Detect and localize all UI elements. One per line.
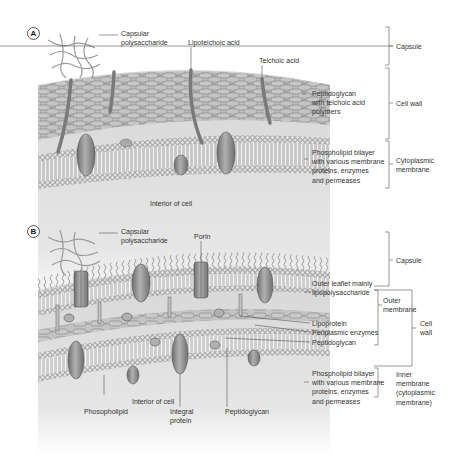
bracket-capsule-b: Capsule — [396, 256, 422, 265]
bracket-capsule-a: Capsule — [396, 42, 422, 51]
label-peptidoglycan-a: Peptidoglycan with teichoic acid polymer… — [312, 89, 365, 117]
bracket-cell-wall-b: Cell wall — [420, 319, 432, 337]
label-phospholipid: Phosopholipid — [84, 407, 128, 416]
cell-envelope-diagram: A B Capsular polysaccharide Lipoteichoic… — [0, 0, 456, 455]
label-peptidoglycan-b: Peptidoglycan — [312, 338, 356, 347]
label-capsular-polysaccharide-a: Capsular polysaccharide — [121, 29, 168, 47]
diagram-artwork — [0, 0, 456, 455]
label-integral-protein: Integral protein — [170, 407, 193, 425]
label-capsular-polysaccharide-b: Capsular polysaccharide — [121, 227, 168, 245]
bracket-outer-membrane: Outer membrane — [383, 296, 416, 314]
label-interior-b: Interior of cell — [132, 397, 174, 406]
label-outer-leaflet: Outer leaflet mainly lipopolysaccharide — [312, 279, 372, 297]
label-teichoic-acid: Teichoic acid — [259, 56, 299, 65]
panel-b-badge: B — [27, 225, 40, 238]
bracket-cell-wall-a: Cell wall — [396, 99, 422, 108]
label-peptidoglycan-bottom: Peptidoglycan — [225, 407, 269, 416]
panel-a-badge: A — [27, 27, 40, 40]
label-lipoteichoic-acid: Lipoteichoic acid — [188, 38, 240, 47]
bracket-inner-membrane: Inner membrane (cytoplasmic membrane) — [396, 370, 435, 407]
bracket-cytoplasmic-membrane-a: Cytoplasmic membrane — [396, 156, 434, 174]
label-lipoprotein: Lipoprotein — [312, 319, 347, 328]
label-porin: Porin — [194, 232, 210, 241]
label-periplasmic-enzymes: Periplasmic enzymes — [312, 328, 378, 337]
label-phospholipid-bilayer-b: Phospholipid bilayer with various membra… — [312, 369, 384, 406]
label-interior-a: Interior of cell — [150, 199, 192, 208]
label-phospholipid-bilayer-a: Phospholipid bilayer with various membra… — [312, 148, 384, 185]
